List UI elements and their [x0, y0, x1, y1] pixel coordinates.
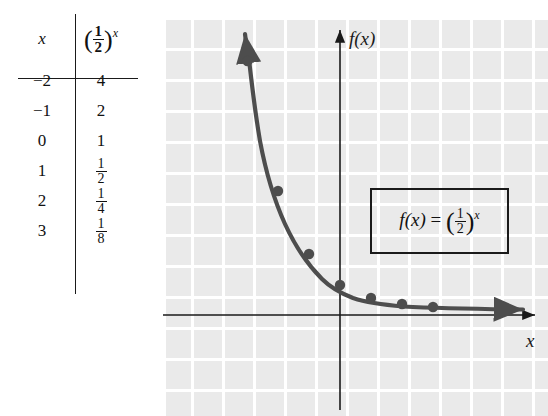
- cell-x: −1: [14, 96, 70, 126]
- header-fraction: 12: [93, 24, 105, 55]
- cell-y-denominator: 8: [96, 231, 107, 246]
- cell-y-whole: 1: [97, 131, 106, 150]
- y-axis-label: f(x): [349, 28, 375, 50]
- header-close-paren: ): [104, 24, 113, 53]
- graph-panel: f(x) x f(x) = (12)x: [163, 20, 548, 416]
- cell-y-numerator: 1: [96, 217, 107, 231]
- equation-open-paren: (: [446, 206, 455, 235]
- equation-exponent: x: [474, 207, 479, 221]
- data-point: [366, 293, 376, 303]
- table-header-row: x (12)x: [14, 12, 132, 66]
- data-point: [304, 249, 314, 259]
- cell-y-whole: 4: [97, 71, 106, 90]
- cell-x: 0: [14, 126, 70, 156]
- table-row: −2 4: [14, 66, 132, 96]
- header-cell-fx: (12)x: [70, 12, 132, 66]
- data-point: [273, 186, 283, 196]
- cell-y-denominator: 4: [96, 201, 107, 216]
- header-open-paren: (: [84, 24, 93, 53]
- x-axis-label: x: [526, 330, 534, 352]
- cell-x: 1: [14, 156, 70, 186]
- header-fraction-denominator: 2: [93, 39, 105, 55]
- table-row: 3 18: [14, 216, 132, 246]
- equation-numerator: 1: [455, 207, 466, 221]
- figure-root: x (12)x −2 4 −1 2 0: [0, 0, 548, 416]
- header-fraction-numerator: 1: [93, 24, 105, 39]
- cell-y-fraction: 12: [96, 157, 107, 186]
- cell-x: −2: [14, 66, 70, 96]
- equation-denominator: 2: [455, 221, 466, 236]
- data-point: [335, 280, 345, 290]
- table-row: 1 12: [14, 156, 132, 186]
- cell-y-whole: 2: [97, 101, 106, 120]
- equation-lhs: f(x): [399, 208, 425, 229]
- exponential-curve: [248, 46, 524, 310]
- value-table: x (12)x −2 4 −1 2 0: [0, 0, 162, 330]
- cell-y-denominator: 2: [96, 171, 107, 186]
- equation-equals: =: [430, 208, 441, 229]
- cell-y-fraction: 18: [96, 217, 107, 246]
- cell-y: 14: [70, 186, 132, 216]
- cell-y: 2: [70, 96, 132, 126]
- table-row: 0 1: [14, 126, 132, 156]
- cell-y: 18: [70, 216, 132, 246]
- equation-fraction: 12: [455, 207, 466, 236]
- header-x-label: x: [38, 29, 46, 48]
- equation-box: f(x) = (12)x: [370, 188, 509, 254]
- equation-text: f(x) = (12)x: [399, 207, 479, 236]
- cell-y-fraction: 14: [96, 187, 107, 216]
- header-exponent: x: [113, 25, 118, 39]
- table-grid: x (12)x −2 4 −1 2 0: [14, 12, 132, 246]
- data-point: [242, 56, 252, 66]
- data-point: [428, 302, 438, 312]
- table-row: −1 2: [14, 96, 132, 126]
- cell-y: 12: [70, 156, 132, 186]
- cell-x: 3: [14, 216, 70, 246]
- cell-y-numerator: 1: [96, 187, 107, 201]
- header-cell-x: x: [14, 12, 70, 66]
- cell-x: 2: [14, 186, 70, 216]
- curve-up-arrow: [245, 34, 248, 54]
- cell-y-numerator: 1: [96, 157, 107, 171]
- table-row: 2 14: [14, 186, 132, 216]
- data-point: [397, 299, 407, 309]
- cell-y: 4: [70, 66, 132, 96]
- cell-y: 1: [70, 126, 132, 156]
- equation-close-paren: ): [466, 206, 475, 235]
